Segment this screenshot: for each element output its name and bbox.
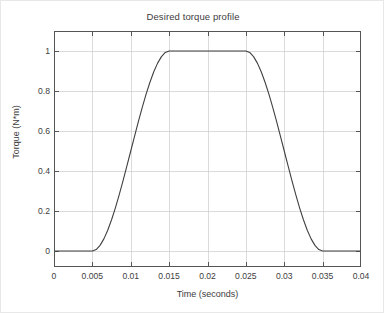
plot-canvas <box>54 31 361 267</box>
x-tick-label: 0.03 <box>276 271 293 281</box>
y-tick-label: 0.4 <box>38 166 50 176</box>
x-tick-label: 0 <box>52 271 57 281</box>
plot-area <box>54 31 361 267</box>
y-tick-label: 0 <box>45 246 50 256</box>
chart-title: Desired torque profile <box>1 11 384 22</box>
y-tick-label: 0.6 <box>38 126 50 136</box>
x-tick-label: 0.02 <box>199 271 216 281</box>
chart-figure: Desired torque profile 00.0050.010.0150.… <box>0 0 384 313</box>
x-tick-label: 0.035 <box>312 271 334 281</box>
y-tick-label: 0.2 <box>38 206 50 216</box>
data-series-line <box>54 51 361 251</box>
x-tick-label: 0.005 <box>82 271 104 281</box>
y-tick-label: 1 <box>45 46 50 56</box>
y-axis-label: Torque (N*m) <box>11 87 21 177</box>
x-tick-label: 0.025 <box>235 271 257 281</box>
x-tick-label: 0.01 <box>122 271 139 281</box>
x-axis-label: Time (seconds) <box>54 289 361 299</box>
x-tick-label: 0.015 <box>158 271 180 281</box>
x-tick-label: 0.04 <box>353 271 370 281</box>
y-tick-label: 0.8 <box>38 86 50 96</box>
